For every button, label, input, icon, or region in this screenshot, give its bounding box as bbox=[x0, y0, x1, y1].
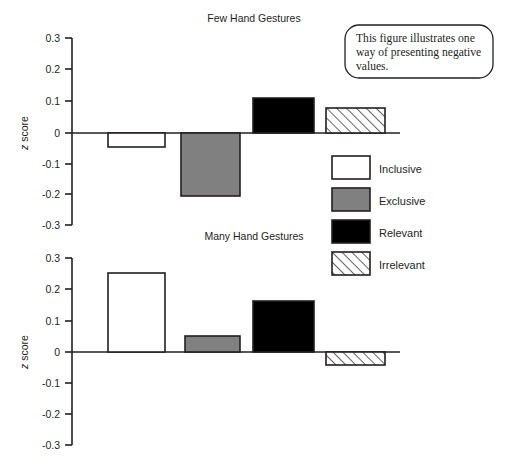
y-axis-title-top: z score bbox=[18, 116, 30, 151]
y-tick-label: -0.2 bbox=[42, 408, 60, 420]
y-tick-label: 0.3 bbox=[45, 252, 60, 264]
figure-canvas: Few Hand Gestures 0.3 0.2 0.1 0 -0.1 -0.… bbox=[0, 0, 508, 469]
bar-top-irrelevant bbox=[326, 108, 385, 133]
y-tick-label: -0.1 bbox=[42, 377, 60, 389]
legend-swatch-inclusive bbox=[332, 156, 370, 179]
legend-label-irrelevant: Irrelevant bbox=[379, 259, 425, 271]
bar-top-exclusive bbox=[181, 133, 240, 196]
legend-swatch-relevant bbox=[332, 220, 370, 243]
y-tick-labels-bottom: 0.3 0.2 0.1 0 -0.1 -0.2 -0.3 bbox=[42, 252, 60, 451]
y-tick-label: 0.2 bbox=[45, 63, 60, 75]
svg-text:z score: z score bbox=[18, 116, 30, 151]
annotation-line-1: This figure illustrates one bbox=[356, 32, 475, 45]
bar-bottom-inclusive bbox=[108, 273, 165, 352]
legend-swatch-exclusive bbox=[332, 188, 370, 211]
annotation-callout: This figure illustrates one way of prese… bbox=[345, 25, 493, 78]
y-tick-label: -0.3 bbox=[42, 439, 60, 451]
legend-swatch-irrelevant bbox=[332, 252, 370, 275]
legend-label-exclusive: Exclusive bbox=[379, 195, 425, 207]
panel-title-bottom: Many Hand Gestures bbox=[204, 230, 303, 242]
svg-text:z score: z score bbox=[18, 335, 30, 370]
y-tick-label: 0.3 bbox=[45, 32, 60, 44]
y-axis-title-rest: score bbox=[18, 335, 30, 364]
stray-glyph bbox=[27, 0, 31, 8]
y-tick-label: -0.1 bbox=[42, 158, 60, 170]
y-ticks-top bbox=[65, 38, 72, 225]
y-axis-title-rest: score bbox=[18, 116, 30, 145]
y-tick-label: 0.2 bbox=[45, 283, 60, 295]
y-ticks-bottom bbox=[65, 258, 72, 445]
annotation-line-3: values. bbox=[356, 60, 389, 73]
legend: Inclusive Exclusive Relevant Irrelevant bbox=[332, 156, 425, 275]
y-tick-label: 0 bbox=[54, 127, 60, 139]
chart-svg: Few Hand Gestures 0.3 0.2 0.1 0 -0.1 -0.… bbox=[0, 0, 508, 469]
legend-label-inclusive: Inclusive bbox=[379, 163, 422, 175]
legend-label-relevant: Relevant bbox=[379, 227, 422, 239]
panel-title-top: Few Hand Gestures bbox=[207, 12, 300, 24]
bar-bottom-irrelevant bbox=[326, 352, 385, 365]
y-tick-label: -0.2 bbox=[42, 188, 60, 200]
y-axis-title-bottom: z score bbox=[18, 335, 30, 370]
bar-bottom-exclusive bbox=[185, 336, 240, 352]
bar-top-inclusive bbox=[108, 133, 165, 147]
y-tick-label: 0 bbox=[54, 346, 60, 358]
bar-top-relevant bbox=[253, 98, 314, 133]
bar-bottom-relevant bbox=[253, 301, 314, 352]
y-tick-labels-top: 0.3 0.2 0.1 0 -0.1 -0.2 -0.3 bbox=[42, 32, 60, 231]
y-tick-label: 0.1 bbox=[45, 95, 60, 107]
y-tick-label: -0.3 bbox=[42, 219, 60, 231]
annotation-line-2: way of presenting negative bbox=[356, 46, 481, 59]
y-tick-label: 0.1 bbox=[45, 315, 60, 327]
